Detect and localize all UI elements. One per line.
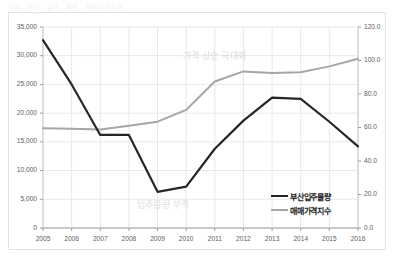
x-axis-tick-label: 2005 — [29, 235, 57, 242]
x-axis-tick-label: 2012 — [229, 235, 257, 242]
series-line-1 — [43, 40, 358, 192]
x-axis-tick-label: 2010 — [172, 235, 200, 242]
left-axis-tick-label: 20,000 — [9, 109, 37, 116]
x-axis-tick-label: 2014 — [287, 235, 315, 242]
legend-item-series-2[interactable]: 매매가격지수 — [271, 203, 367, 217]
x-axis-tick-label: 2006 — [58, 235, 86, 242]
series-paths-group — [43, 40, 358, 192]
left-axis-tick-label: 0 — [9, 224, 37, 231]
left-axis-tick-label: 10,000 — [9, 166, 37, 173]
chart-annotation-1: 가격 상승 극대화 — [183, 49, 247, 62]
heading-fragment-4: 물량 — [66, 1, 78, 11]
heading-fragment-1: 자료 — [8, 1, 20, 11]
x-axis-tick-label: 2015 — [315, 235, 343, 242]
right-axis-tick-label: 80.0 — [364, 90, 392, 97]
right-axis-tick-label: 40.0 — [364, 157, 392, 164]
legend-line-icon-gray — [271, 209, 288, 211]
legend-line-icon-black — [271, 195, 288, 197]
x-axis-tick-label: 2008 — [115, 235, 143, 242]
chart-legend: 부산입주물량 매매가격지수 — [271, 189, 367, 217]
left-axis-tick-label: 35,000 — [9, 23, 37, 30]
heading-fragment-5: 매매가격지수 — [86, 1, 123, 11]
right-axis-tick-label: 120.0 — [364, 23, 392, 30]
left-axis-tick-label: 25,000 — [9, 80, 37, 87]
right-axis-tick-label: 20.0 — [364, 190, 392, 197]
x-axis-tick-label: 2016 — [344, 235, 372, 242]
left-axis-tick-label: 15,000 — [9, 137, 37, 144]
legend-item-series-1[interactable]: 부산입주물량 — [271, 189, 367, 203]
left-axis-tick-label: 30,000 — [9, 51, 37, 58]
x-axis-tick-label: 2011 — [201, 235, 229, 242]
x-axis-tick-label: 2009 — [144, 235, 172, 242]
right-axis-tick-label: 0.0 — [364, 224, 392, 231]
figure-heading-faint: 자료 부산 입주 물량 매매가격지수 — [8, 1, 168, 11]
chart-annotation-2: 입주물량 부족 — [137, 198, 190, 211]
legend-label-series-1: 부산입주물량 — [290, 191, 331, 202]
legend-label-series-2: 매매가격지수 — [290, 205, 331, 216]
x-axis-tick-label: 2007 — [86, 235, 114, 242]
chart-figure: 자료 부산 입주 물량 매매가격지수 05,00010,00015,00020,… — [0, 0, 394, 258]
right-axis-tick-label: 60.0 — [364, 123, 392, 130]
chart-plot-frame: 05,00010,00015,00020,00025,00030,00035,0… — [8, 12, 386, 250]
right-axis-tick-label: 100.0 — [364, 56, 392, 63]
heading-fragment-3: 입주 — [47, 1, 59, 11]
left-axis-tick-label: 5,000 — [9, 195, 37, 202]
heading-fragment-2: 부산 — [27, 1, 39, 11]
x-axis-tick-label: 2013 — [258, 235, 286, 242]
